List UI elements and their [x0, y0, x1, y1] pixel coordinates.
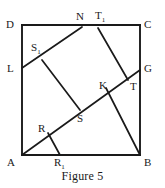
- vertex-label-S1: S1: [31, 42, 41, 56]
- vertex-label-T1: T1: [95, 10, 105, 24]
- vertex-label-N: N: [76, 11, 84, 22]
- vertex-label-S: S: [77, 113, 83, 124]
- vertex-label-C: C: [144, 19, 151, 30]
- segment-K-B: [106, 88, 140, 155]
- segment-R-R1: [48, 133, 60, 155]
- vertex-label-T1-main: T: [95, 9, 102, 21]
- vertex-label-B: B: [144, 157, 151, 168]
- vertex-label-K: K: [99, 80, 107, 91]
- vertex-label-R: R: [38, 123, 45, 134]
- segment-S1-S: [42, 60, 80, 110]
- vertex-label-D: D: [6, 19, 14, 30]
- vertex-label-G: G: [144, 63, 152, 74]
- figure-caption: Figure 5: [0, 169, 165, 184]
- vertex-label-T1-sub: 1: [102, 16, 106, 24]
- geometry-diagram: [0, 0, 165, 188]
- vertex-label-T: T: [130, 81, 137, 92]
- vertex-label-S1-sub: 1: [37, 48, 41, 56]
- vertex-label-A: A: [7, 157, 15, 168]
- segment-T1-T: [98, 28, 128, 80]
- vertex-label-L: L: [7, 63, 14, 74]
- figure-container: D N T1 C S1 L G K T S R R1 A B Figure 5: [0, 0, 165, 188]
